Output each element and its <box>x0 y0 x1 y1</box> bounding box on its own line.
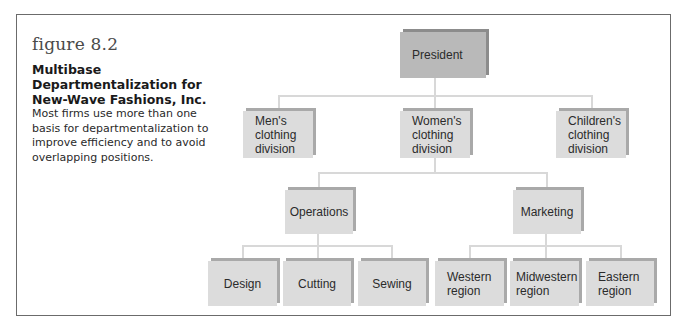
connector-women-up <box>434 95 436 111</box>
org-node-label: Men's clothing division <box>255 114 296 156</box>
org-node-womens-division: Women's clothing division <box>400 111 470 158</box>
connector-western-up <box>469 245 471 261</box>
org-node-marketing: Marketing <box>513 190 581 234</box>
org-node-label: Midwestern region <box>516 270 577 298</box>
org-node-label: President <box>412 48 463 62</box>
org-node-label: Women's clothing division <box>412 114 461 156</box>
org-node-label: Western region <box>447 270 491 298</box>
connector-men-up <box>278 95 280 111</box>
org-node-label: Sewing <box>372 277 411 291</box>
org-node-president: President <box>400 32 486 78</box>
figure-description: Most firms use more than one basis for d… <box>32 107 222 165</box>
org-node-label: Eastern region <box>598 270 639 298</box>
figure-label: figure 8.2 <box>32 34 222 54</box>
org-node-childrens-division: Children's clothing division <box>556 111 626 158</box>
connector-midwestern-up <box>545 245 547 261</box>
connector-cutting-up <box>317 245 319 261</box>
connector-president-down <box>434 77 436 96</box>
figure-heading: Multibase Departmentalization for New-Wa… <box>32 62 222 107</box>
connector-function-bar <box>318 172 548 174</box>
org-node-label: Design <box>224 277 261 291</box>
connector-children-up <box>591 95 593 111</box>
org-node-midwestern-region: Midwestern region <box>510 261 579 306</box>
connector-marketing-up <box>546 172 548 190</box>
org-node-sewing: Sewing <box>358 261 426 306</box>
org-node-cutting: Cutting <box>283 261 351 306</box>
org-node-label: Operations <box>290 205 349 219</box>
figure-caption: figure 8.2 Multibase Departmentalization… <box>32 34 222 165</box>
connector-operations-up <box>318 172 320 190</box>
org-node-western-region: Western region <box>435 261 504 306</box>
connector-eastern-up <box>620 245 622 261</box>
org-node-operations: Operations <box>285 190 353 234</box>
org-node-design: Design <box>208 261 277 306</box>
org-node-label: Marketing <box>521 205 574 219</box>
org-node-mens-division: Men's clothing division <box>243 111 313 158</box>
org-node-eastern-region: Eastern region <box>586 261 654 306</box>
org-node-label: Children's clothing division <box>568 114 621 156</box>
org-node-label: Cutting <box>298 277 336 291</box>
connector-sewing-up <box>391 245 393 261</box>
connector-design-up <box>242 245 244 261</box>
